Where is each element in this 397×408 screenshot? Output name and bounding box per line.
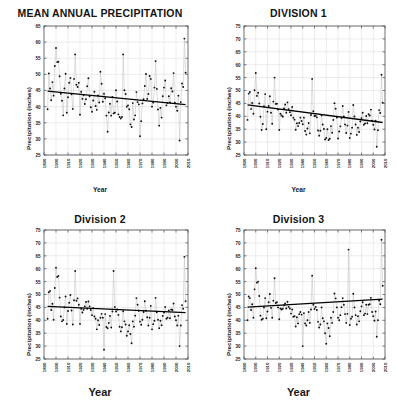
- svg-text:1910: 1910: [265, 362, 270, 372]
- svg-text:70: 70: [235, 241, 241, 246]
- svg-text:1970: 1970: [138, 362, 143, 372]
- svg-text:1930: 1930: [90, 158, 95, 168]
- svg-text:55: 55: [235, 280, 241, 285]
- svg-text:1890: 1890: [42, 158, 47, 168]
- svg-text:2000: 2000: [371, 158, 376, 168]
- svg-text:25: 25: [35, 357, 41, 362]
- svg-text:50: 50: [35, 72, 41, 77]
- svg-text:45: 45: [35, 305, 41, 310]
- svg-text:1890: 1890: [242, 158, 247, 168]
- svg-text:1960: 1960: [324, 158, 329, 168]
- svg-text:1980: 1980: [347, 362, 352, 372]
- svg-text:1940: 1940: [102, 158, 107, 168]
- svg-text:25: 25: [235, 357, 241, 362]
- x-axis-label: Year: [0, 386, 200, 398]
- svg-text:50: 50: [235, 292, 241, 297]
- svg-text:35: 35: [35, 121, 41, 126]
- svg-text:40: 40: [35, 318, 41, 323]
- svg-text:1990: 1990: [162, 158, 167, 168]
- svg-text:2010: 2010: [383, 362, 388, 372]
- svg-text:75: 75: [235, 228, 241, 233]
- svg-text:1950: 1950: [312, 158, 317, 168]
- svg-text:1910: 1910: [265, 158, 270, 168]
- svg-text:70: 70: [235, 37, 241, 42]
- svg-text:1970: 1970: [336, 158, 341, 168]
- svg-text:2010: 2010: [383, 158, 388, 168]
- svg-text:70: 70: [35, 241, 41, 246]
- svg-text:25: 25: [35, 153, 41, 158]
- svg-text:1980: 1980: [347, 158, 352, 168]
- svg-text:1950: 1950: [312, 362, 317, 372]
- svg-text:1930: 1930: [289, 158, 294, 168]
- svg-text:2000: 2000: [174, 362, 179, 372]
- svg-text:2010: 2010: [186, 158, 191, 168]
- svg-text:2010: 2010: [186, 362, 191, 372]
- svg-text:45: 45: [235, 101, 241, 106]
- svg-text:1940: 1940: [300, 362, 305, 372]
- x-axis-label: Year: [200, 186, 397, 193]
- y-axis-label: Precipitation (inches): [225, 87, 232, 150]
- svg-text:1980: 1980: [150, 362, 155, 372]
- svg-text:1900: 1900: [54, 362, 59, 372]
- svg-text:1910: 1910: [66, 362, 71, 372]
- svg-text:65: 65: [235, 50, 241, 55]
- svg-text:1930: 1930: [90, 362, 95, 372]
- svg-text:1960: 1960: [126, 158, 131, 168]
- svg-text:75: 75: [35, 228, 41, 233]
- svg-text:1890: 1890: [42, 362, 47, 372]
- svg-text:1910: 1910: [66, 158, 71, 168]
- figure-panel-grid: MEAN ANNUAL PRECIPITATION 25303540455055…: [0, 0, 397, 408]
- y-axis-label: Precipitation (inches): [25, 293, 32, 356]
- svg-text:35: 35: [235, 331, 241, 336]
- x-axis-label: Year: [0, 186, 200, 193]
- svg-text:45: 45: [35, 88, 41, 93]
- svg-text:55: 55: [235, 76, 241, 81]
- svg-text:25: 25: [235, 153, 241, 158]
- svg-text:2000: 2000: [371, 362, 376, 372]
- panel-division-2: Division 2 25303540455055606570751890190…: [0, 204, 200, 408]
- svg-text:40: 40: [235, 114, 241, 119]
- svg-text:1920: 1920: [78, 158, 83, 168]
- svg-text:2000: 2000: [174, 158, 179, 168]
- svg-text:1920: 1920: [78, 362, 83, 372]
- svg-text:1900: 1900: [54, 158, 59, 168]
- svg-text:1970: 1970: [336, 362, 341, 372]
- svg-text:60: 60: [35, 40, 41, 45]
- panel-mean-annual-precipitation: MEAN ANNUAL PRECIPITATION 25303540455055…: [0, 0, 200, 204]
- svg-text:1940: 1940: [102, 362, 107, 372]
- svg-text:1950: 1950: [114, 362, 119, 372]
- svg-text:65: 65: [235, 254, 241, 259]
- svg-text:45: 45: [235, 305, 241, 310]
- svg-text:1940: 1940: [300, 158, 305, 168]
- svg-text:55: 55: [35, 280, 41, 285]
- svg-text:1950: 1950: [114, 158, 119, 168]
- y-axis-label: Precipitation (inches): [225, 293, 232, 356]
- svg-text:65: 65: [35, 24, 41, 29]
- svg-text:1920: 1920: [277, 158, 282, 168]
- svg-text:1960: 1960: [324, 362, 329, 372]
- svg-text:35: 35: [35, 331, 41, 336]
- svg-text:50: 50: [235, 88, 241, 93]
- svg-text:1890: 1890: [242, 362, 247, 372]
- svg-text:60: 60: [35, 267, 41, 272]
- svg-text:1930: 1930: [289, 362, 294, 372]
- panel-division-3: Division 3 25303540455055606570751890190…: [200, 204, 397, 408]
- svg-text:1990: 1990: [162, 362, 167, 372]
- svg-text:1920: 1920: [277, 362, 282, 372]
- svg-text:30: 30: [235, 140, 241, 145]
- svg-text:1960: 1960: [126, 362, 131, 372]
- svg-text:30: 30: [35, 344, 41, 349]
- y-axis-label: Precipitation (inches): [25, 87, 32, 150]
- svg-text:1980: 1980: [150, 158, 155, 168]
- svg-text:1970: 1970: [138, 158, 143, 168]
- svg-text:60: 60: [235, 63, 241, 68]
- svg-text:75: 75: [235, 24, 241, 29]
- svg-text:40: 40: [235, 318, 241, 323]
- svg-text:30: 30: [235, 344, 241, 349]
- x-axis-label: Year: [200, 386, 397, 398]
- panel-division-1: DIVISION 1 25303540455055606570751890190…: [200, 0, 397, 204]
- svg-text:1900: 1900: [253, 158, 258, 168]
- svg-text:35: 35: [235, 127, 241, 132]
- svg-text:1990: 1990: [359, 362, 364, 372]
- svg-text:65: 65: [35, 254, 41, 259]
